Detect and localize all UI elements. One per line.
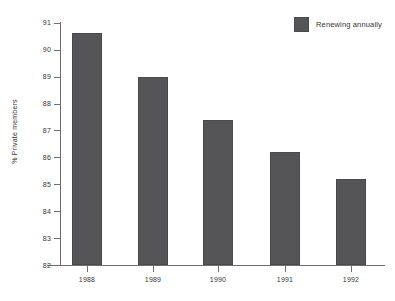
bar[interactable] [138, 77, 168, 265]
y-axis-line [60, 22, 61, 266]
y-axis-tick-label: 85 [43, 181, 51, 188]
y-axis-tick-label: 90 [43, 46, 51, 53]
y-axis-tick [54, 77, 60, 78]
y-axis-tick [54, 157, 60, 158]
y-axis-tick-label: 83 [43, 235, 51, 242]
y-axis-tick [54, 104, 60, 105]
bar[interactable] [72, 33, 102, 265]
legend-label-renewing-annually: Renewing annually [316, 21, 382, 29]
y-axis-tick-label: 84 [43, 208, 51, 215]
x-axis-tick [218, 266, 219, 272]
y-axis-tick-label: 82 [43, 262, 51, 269]
bar[interactable] [270, 152, 300, 265]
legend-swatch-renewing-annually [294, 17, 309, 32]
y-axis-tick [54, 50, 60, 51]
legend: Renewing annually [294, 17, 382, 32]
plot-area: % Private members 91 90 89 88 87 86 85 8… [0, 0, 395, 301]
y-axis-tick [54, 211, 60, 212]
bar[interactable] [203, 120, 233, 265]
y-axis-tick-label: 86 [43, 154, 51, 161]
x-axis-tick [153, 266, 154, 272]
x-axis-tick [351, 266, 352, 272]
y-axis-tick [54, 238, 60, 239]
x-axis-tick-label: 1992 [331, 276, 371, 283]
y-axis-tick [54, 184, 60, 185]
bar[interactable] [336, 179, 366, 265]
x-axis-tick [285, 266, 286, 272]
x-axis-tick [87, 266, 88, 272]
y-axis-tick-label: 88 [43, 100, 51, 107]
x-axis-tick-label: 1989 [133, 276, 173, 283]
y-axis-tick-label: 89 [43, 73, 51, 80]
y-axis-label: % Private members [11, 82, 18, 182]
x-axis-tick-label: 1988 [67, 276, 107, 283]
x-axis-line [47, 265, 385, 266]
bar-chart: % Private members 91 90 89 88 87 86 85 8… [0, 0, 395, 301]
y-axis-tick-label: 87 [43, 127, 51, 134]
y-axis-tick [54, 130, 60, 131]
x-axis-tick-label: 1990 [198, 276, 238, 283]
y-axis-tick-label: 91 [43, 19, 51, 26]
y-axis-tick [54, 265, 60, 266]
x-axis-tick-label: 1991 [265, 276, 305, 283]
y-axis-tick [54, 23, 60, 24]
